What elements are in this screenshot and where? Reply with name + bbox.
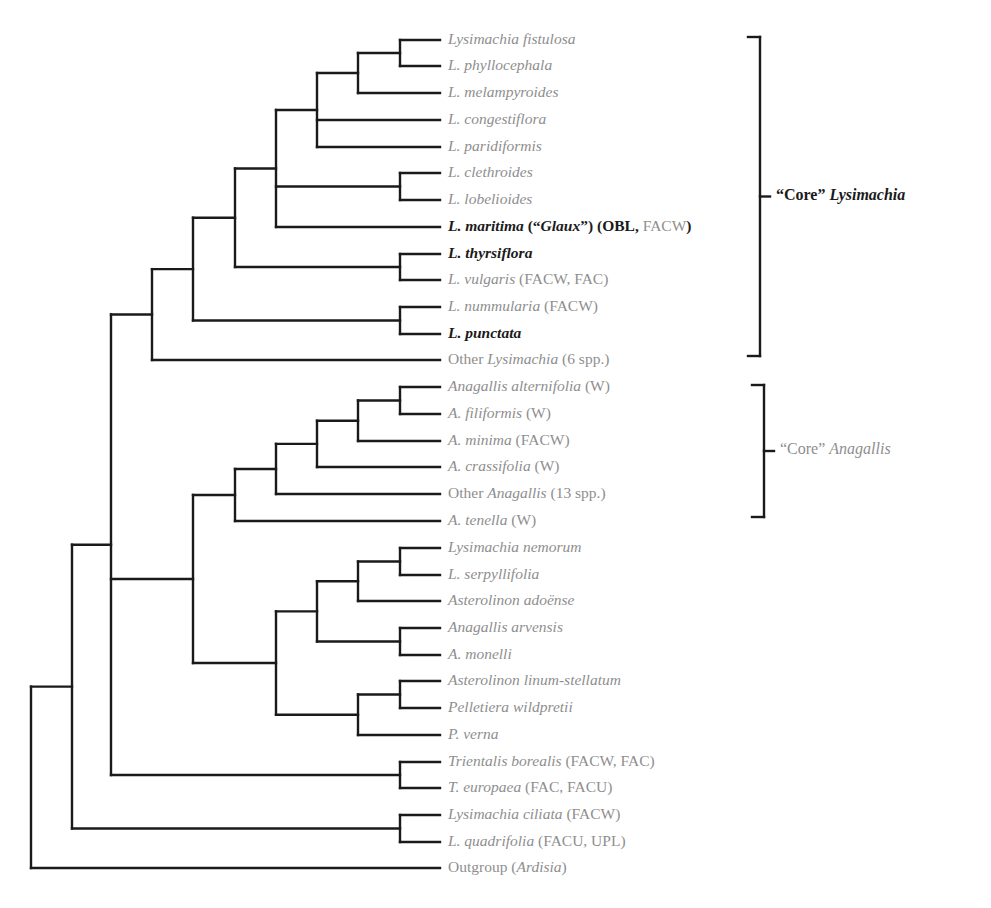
taxon-label: Asterolinon linum-stellatum: [448, 670, 621, 690]
taxon-label: A. filiformis (W): [448, 403, 551, 423]
taxon-label: Lysimachia ciliata (FACW): [448, 804, 620, 824]
taxon-label: L. congestiflora: [448, 109, 546, 129]
taxon-label: L. thyrsiflora: [448, 243, 532, 263]
taxon-label: Other Anagallis (13 spp.): [448, 483, 606, 503]
taxon-label: Trientalis borealis (FACW, FAC): [448, 751, 655, 771]
taxon-label: L. punctata: [448, 323, 521, 343]
taxon-label: A. monelli: [448, 644, 512, 664]
taxon-label: Lysimachia fistulosa: [448, 29, 575, 49]
core-anagallis-label: “Core” Anagallis: [780, 440, 891, 458]
taxon-label: L. clethroides: [448, 162, 533, 182]
taxon-label: L. vulgaris (FACW, FAC): [448, 269, 608, 289]
taxon-label: Asterolinon adoënse: [448, 590, 574, 610]
taxon-label: P. verna: [448, 724, 499, 744]
taxon-label: L. nummularia (FACW): [448, 296, 598, 316]
taxon-label: Lysimachia nemorum: [448, 537, 581, 557]
taxon-label: Other Lysimachia (6 spp.): [448, 349, 609, 369]
taxon-label: L. paridiformis: [448, 136, 542, 156]
taxon-label: L. maritima (“Glaux”) (OBL, FACW): [448, 216, 691, 236]
taxon-label: L. phyllocephala: [448, 55, 552, 75]
taxon-label: L. lobelioides: [448, 189, 532, 209]
taxon-label: A. crassifolia (W): [448, 456, 560, 476]
taxon-label: Anagallis arvensis: [448, 617, 563, 637]
taxon-label: T. europaea (FAC, FACU): [448, 777, 612, 797]
taxon-label: Pelletiera wildpretii: [448, 697, 573, 717]
taxon-label: Outgroup (Ardisia): [448, 857, 567, 877]
taxon-label: Anagallis alternifolia (W): [448, 376, 610, 396]
core-lysimachia-label: “Core” Lysimachia: [776, 186, 905, 204]
taxon-label: L. quadrifolia (FACU, UPL): [448, 831, 626, 851]
taxon-label: L. melampyroides: [448, 82, 559, 102]
taxon-label: A. tenella (W): [448, 510, 536, 530]
taxon-label: L. serpyllifolia: [448, 564, 539, 584]
taxon-label: A. minima (FACW): [448, 430, 570, 450]
